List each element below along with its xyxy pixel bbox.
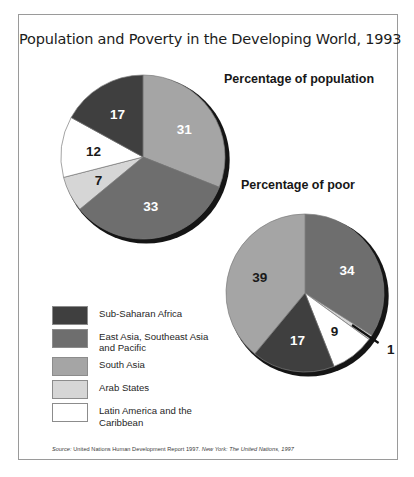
heading-percentage-of-poor: Percentage of poor bbox=[241, 178, 355, 192]
pie-chart-percentage-of-population: 313371217 bbox=[55, 61, 243, 253]
pie-2-svg: 34191739 bbox=[221, 199, 399, 385]
pie-slice-label: 7 bbox=[95, 173, 103, 188]
legend-item: East Asia, Southeast Asia and Pacific bbox=[52, 329, 232, 353]
legend-item: Latin America and the Caribbean bbox=[52, 403, 232, 427]
legend-item: South Asia bbox=[52, 357, 232, 376]
legend-label: Arab States bbox=[99, 380, 149, 393]
pie-slice-label: 34 bbox=[340, 263, 356, 278]
pie-slice-label: 31 bbox=[177, 122, 193, 137]
pie-chart-percentage-of-poor: 34191739 bbox=[221, 199, 399, 385]
pie-slice-label: 33 bbox=[143, 199, 159, 214]
source-note: Source: United Nations Human Development… bbox=[52, 446, 294, 452]
legend-item: Sub-Saharan Africa bbox=[52, 306, 232, 325]
legend-label: Sub-Saharan Africa bbox=[99, 306, 182, 319]
pie-1-svg: 313371217 bbox=[55, 61, 243, 253]
legend-label: South Asia bbox=[99, 357, 145, 370]
figure-title: Population and Poverty in the Developing… bbox=[19, 31, 397, 47]
heading-percentage-of-population: Percentage of population bbox=[224, 72, 374, 86]
legend-label: Latin America and the Caribbean bbox=[99, 403, 192, 427]
pie-slice-label: 17 bbox=[290, 333, 305, 348]
figure-frame: Population and Poverty in the Developing… bbox=[18, 14, 398, 460]
legend-item: Arab States bbox=[52, 380, 232, 399]
legend: Sub-Saharan AfricaEast Asia, Southeast A… bbox=[52, 306, 232, 432]
pie-slice-label: 1 bbox=[387, 342, 395, 357]
legend-swatch bbox=[52, 380, 88, 399]
pie-slice-label: 9 bbox=[331, 324, 339, 339]
pie-slice-label: 39 bbox=[252, 270, 267, 285]
pie-slice-label: 17 bbox=[110, 107, 125, 122]
pie-slice-label: 12 bbox=[86, 144, 101, 159]
legend-label: East Asia, Southeast Asia and Pacific bbox=[99, 329, 208, 353]
legend-swatch bbox=[52, 306, 88, 325]
legend-swatch bbox=[52, 403, 88, 422]
legend-swatch bbox=[52, 329, 88, 348]
legend-swatch bbox=[52, 357, 88, 376]
